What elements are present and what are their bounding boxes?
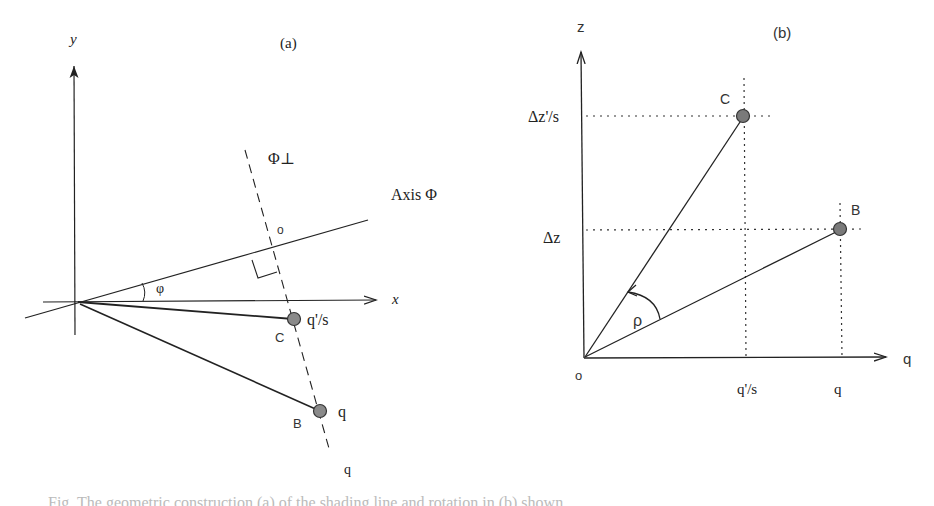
dashed-line-end-label: q <box>344 462 351 477</box>
panel-a-title: (a) <box>280 35 297 52</box>
z-axis <box>581 52 584 358</box>
rho-arrowhead-icon <box>628 285 637 296</box>
vector-to-c <box>78 302 293 319</box>
phi-angle-label: φ <box>156 281 164 296</box>
point-c-q-label: q'/s <box>737 381 757 397</box>
phi-perp-label: Φ⊥ <box>268 150 295 167</box>
origin-label: o <box>575 368 582 383</box>
panel-b: (b) z q ρ C Δz'/s q'/s B Δz q o <box>528 18 911 397</box>
origin-o-label: o <box>277 223 284 237</box>
b-horizontal-guide <box>586 229 862 230</box>
point-c-value-label: q'/s <box>307 311 329 329</box>
right-angle-mark <box>252 260 277 278</box>
point-c-marker <box>288 313 301 326</box>
panel-a: (a) y x Axis Φ Φ⊥ o φ q'/s C q B q <box>25 31 437 477</box>
axis-phi-label: Axis Φ <box>391 186 437 203</box>
panel-b-title: (b) <box>773 24 791 41</box>
vector-to-b <box>585 231 838 357</box>
point-c-z-label: Δz'/s <box>528 108 559 125</box>
axis-phi-line <box>25 220 368 318</box>
q-axis <box>584 357 886 358</box>
point-b-value-label: q <box>338 403 346 421</box>
point-c-name-label: C <box>275 330 284 345</box>
point-b-z-label: Δz <box>543 229 560 246</box>
y-axis-label: y <box>68 31 77 47</box>
point-b-marker <box>314 405 327 418</box>
vector-to-c <box>585 119 742 357</box>
x-axis-label: x <box>391 291 399 307</box>
figure-caption: Fig. The geometric construction (a) of t… <box>48 494 908 506</box>
point-c-name-label: C <box>720 91 730 107</box>
x-axis <box>43 300 376 302</box>
phi-angle-arc <box>142 283 145 301</box>
point-b-marker <box>834 223 847 236</box>
point-b-name-label: B <box>293 416 302 431</box>
q-axis-label: q <box>903 350 911 367</box>
point-c-marker <box>737 110 750 123</box>
vector-to-b <box>80 304 320 411</box>
point-b-name-label: B <box>851 202 860 218</box>
rho-angle-label: ρ <box>633 312 642 329</box>
y-axis <box>74 66 75 335</box>
point-b-q-label: q <box>834 381 842 397</box>
z-axis-label: z <box>577 18 585 35</box>
